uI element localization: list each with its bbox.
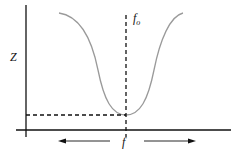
y-axis-label: Z [10, 50, 17, 64]
left-arrowhead-icon [58, 139, 66, 144]
resonance-label: fo [133, 11, 140, 27]
resonance-label-sub: o [136, 18, 140, 27]
impedance-diagram: Z f fo [0, 0, 231, 154]
impedance-curve [59, 13, 183, 115]
x-axis-label: f [122, 135, 127, 149]
right-arrowhead-icon [188, 139, 196, 144]
